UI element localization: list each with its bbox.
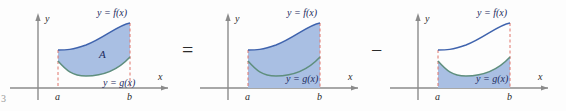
panel-1-graphic: a b y x y = f(x) y = g(x) A [0, 0, 185, 111]
panel-area-under-f: a b y x y = f(x) y = g(x) [190, 0, 375, 111]
axis-label-y: y [424, 13, 430, 24]
tick-label-b: b [127, 91, 132, 102]
tick-label-a: a [55, 91, 60, 102]
tick-label-b: b [507, 91, 512, 102]
caption-f: y = f(x) [286, 7, 318, 19]
caption-g: y = g(x) [285, 73, 319, 85]
axis-label-x: x [537, 71, 543, 82]
tick-label-a: a [435, 91, 440, 102]
tick-label-b: b [317, 91, 322, 102]
area-between-curves-figure: a b y x y = f(x) y = g(x) A = [0, 0, 566, 111]
axis-label-y: y [234, 13, 240, 24]
axis-label-y: y [44, 13, 50, 24]
panel-area-between-curves: a b y x y = f(x) y = g(x) A [0, 0, 185, 111]
panel-3-graphic: a b y x y = f(x) y = g(x) [380, 0, 565, 111]
caption-g: y = g(x) [475, 73, 509, 85]
tick-label-a: a [245, 91, 250, 102]
caption-f: y = f(x) [96, 7, 128, 19]
axis-label-x: x [347, 71, 353, 82]
caption-f: y = f(x) [476, 7, 508, 19]
figure-number: 3 [1, 93, 6, 104]
caption-g: y = g(x) [102, 77, 136, 89]
region-label-A: A [98, 48, 106, 60]
panel-2-graphic: a b y x y = f(x) y = g(x) [190, 0, 375, 111]
panel-area-under-g: a b y x y = f(x) y = g(x) [380, 0, 565, 111]
axis-label-x: x [157, 71, 163, 82]
curve-f [438, 23, 510, 50]
